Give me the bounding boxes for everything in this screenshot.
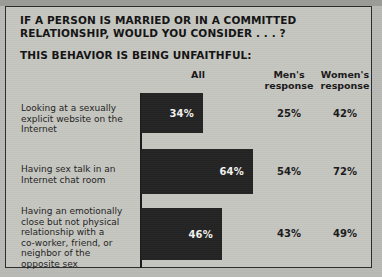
bar-value-label: 46% <box>188 229 222 240</box>
row-label-line: Having sex talk in an <box>21 164 139 175</box>
title-line-1: IF A PERSON IS MARRIED OR IN A COMMITTED <box>20 14 320 27</box>
chart-inner: IF A PERSON IS MARRIED OR IN A COMMITTED… <box>6 7 371 267</box>
column-header-women-line1: Women's <box>314 69 376 80</box>
column-header-men-line1: Men's <box>262 69 316 80</box>
bar-value-label: 64% <box>219 166 253 177</box>
row-label-line: close but not physical <box>21 217 139 228</box>
value-men: 25% <box>262 108 316 119</box>
row-label: Having an emotionally close but not phys… <box>21 206 139 270</box>
row-label-line: Internet <box>21 124 139 135</box>
value-women: 49% <box>314 228 376 239</box>
row-label-line: Internet chat room <box>21 175 139 186</box>
chart-subtitle: THIS BEHAVIOR IS BEING UNFAITHFUL: <box>20 49 252 61</box>
bar-all: 64% <box>141 149 253 194</box>
value-men: 54% <box>262 166 316 177</box>
row-label: Looking at a sexually explicit website o… <box>21 103 139 135</box>
row-label-line: relationship with a <box>21 227 139 238</box>
value-women: 42% <box>314 108 376 119</box>
row-label-line: Having an emotionally <box>21 206 139 217</box>
column-header-women: Women's response <box>314 69 376 91</box>
bar-all: 34% <box>141 93 203 133</box>
survey-chart-screenshot: IF A PERSON IS MARRIED OR IN A COMMITTED… <box>0 0 382 277</box>
value-women: 72% <box>314 166 376 177</box>
title-line-2: RELATIONSHIP, WOULD YOU CONSIDER . . . ? <box>20 27 320 40</box>
page-title: IF A PERSON IS MARRIED OR IN A COMMITTED… <box>20 14 320 40</box>
row-label-line: opposite sex <box>21 259 139 270</box>
row-label: Having sex talk in an Internet chat room <box>21 164 139 185</box>
row-label-line: co-worker, friend, or <box>21 238 139 249</box>
bar-value-label: 34% <box>169 108 203 119</box>
row-label-line: neighbor of the <box>21 248 139 259</box>
chart-frame: IF A PERSON IS MARRIED OR IN A COMMITTED… <box>5 6 372 268</box>
column-header-all: All <box>174 69 222 80</box>
row-label-line: Looking at a sexually <box>21 103 139 114</box>
column-header-men: Men's response <box>262 69 316 91</box>
column-header-men-line2: response <box>262 80 316 91</box>
bar-all: 46% <box>141 208 222 260</box>
column-header-women-line2: response <box>314 80 376 91</box>
value-men: 43% <box>262 228 316 239</box>
row-label-line: explicit website on the <box>21 114 139 125</box>
